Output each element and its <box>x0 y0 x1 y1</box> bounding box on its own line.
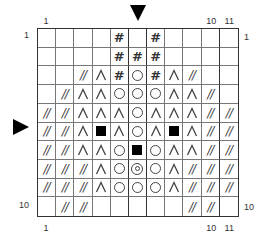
chart-cell <box>147 179 165 198</box>
chart-cell: // <box>202 123 220 142</box>
chart-cell <box>183 141 201 160</box>
double-slash-symbol-icon: // <box>207 201 213 213</box>
column-number-label: 10 <box>206 16 216 26</box>
chart-cell <box>129 160 147 179</box>
circle-symbol-icon <box>150 88 161 99</box>
circle-symbol-icon <box>132 88 143 99</box>
chart-cell <box>93 141 111 160</box>
chart-cell <box>74 29 92 48</box>
chart-cell <box>93 66 111 85</box>
double-slash-symbol-icon: // <box>189 69 195 81</box>
chart-cell <box>111 141 129 160</box>
caret-symbol-icon <box>95 144 107 156</box>
caret-symbol-icon <box>95 88 107 100</box>
double-slash-symbol-icon: // <box>62 163 68 175</box>
chart-cell <box>165 123 183 142</box>
double-slash-symbol-icon: // <box>44 181 50 193</box>
chart-cell <box>165 197 183 216</box>
double-slash-symbol-icon: // <box>62 88 68 100</box>
chart-cell: // <box>220 123 238 142</box>
double-slash-symbol-icon: // <box>207 144 213 156</box>
row-number-label: 1 <box>24 30 29 40</box>
chart-cell <box>183 123 201 142</box>
double-slash-symbol-icon: // <box>62 201 68 213</box>
row-number-label: 1 <box>244 32 249 42</box>
caret-symbol-icon <box>150 107 162 119</box>
chart-cell <box>111 179 129 198</box>
chart-cell <box>93 48 111 67</box>
hash-symbol-icon: # <box>114 50 125 63</box>
double-slash-symbol-icon: // <box>44 125 50 137</box>
chart-cell <box>129 141 147 160</box>
caret-symbol-icon <box>113 107 125 119</box>
chart-cell: // <box>38 123 56 142</box>
chart-cell: // <box>202 197 220 216</box>
chart-cell: // <box>202 104 220 123</box>
circle-symbol-icon <box>150 145 161 156</box>
caret-symbol-icon <box>168 163 180 175</box>
chart-cell <box>38 48 56 67</box>
double-slash-symbol-icon: // <box>226 163 232 175</box>
chart-cell <box>129 197 147 216</box>
chart-cell <box>93 123 111 142</box>
caret-symbol-icon <box>168 144 180 156</box>
chart-cell <box>183 104 201 123</box>
circle-symbol-icon <box>132 182 143 193</box>
chart-cell <box>165 66 183 85</box>
chart-cell: // <box>56 85 74 104</box>
chart-cell <box>74 104 92 123</box>
chart-cell <box>183 48 201 67</box>
hash-symbol-icon: # <box>150 69 161 82</box>
chart-cell <box>202 66 220 85</box>
double-slash-symbol-icon: // <box>226 125 232 137</box>
chart-cell: // <box>220 141 238 160</box>
chart-cell <box>165 179 183 198</box>
chart-cell: // <box>38 179 56 198</box>
chart-cell <box>129 66 147 85</box>
double-slash-symbol-icon: // <box>62 144 68 156</box>
caret-symbol-icon <box>186 88 198 100</box>
double-slash-symbol-icon: // <box>62 125 68 137</box>
chart-cell <box>111 104 129 123</box>
chart-cell <box>220 48 238 67</box>
chart-cell <box>147 104 165 123</box>
caret-symbol-icon <box>168 88 180 100</box>
chart-cell <box>147 123 165 142</box>
chart-cell <box>220 85 238 104</box>
column-number-label: 1 <box>44 223 49 233</box>
hash-symbol-icon: # <box>114 31 125 44</box>
double-slash-symbol-icon: // <box>189 163 195 175</box>
chart-cell <box>129 123 147 142</box>
filled-square-symbol-icon <box>132 145 142 155</box>
double-slash-symbol-icon: // <box>44 163 50 175</box>
chart-cell <box>183 85 201 104</box>
chart-cell <box>111 85 129 104</box>
chart-cell: # <box>111 29 129 48</box>
chart-cell <box>93 160 111 179</box>
chart-cell <box>74 85 92 104</box>
chart-cell <box>165 29 183 48</box>
chart-cell: // <box>220 104 238 123</box>
chart-cell <box>129 179 147 198</box>
chart-cell <box>147 85 165 104</box>
double-slash-symbol-icon: // <box>207 107 213 119</box>
caret-symbol-icon <box>168 107 180 119</box>
circle-symbol-icon <box>114 88 125 99</box>
caret-symbol-icon <box>113 125 125 137</box>
caret-symbol-icon <box>77 88 89 100</box>
row-number-label: 10 <box>244 202 254 212</box>
double-slash-symbol-icon: // <box>207 163 213 175</box>
chart-cell <box>93 179 111 198</box>
chart-cell <box>93 197 111 216</box>
circle-symbol-icon <box>114 163 125 174</box>
chart-cell: // <box>38 104 56 123</box>
chart-cell: # <box>147 48 165 67</box>
caret-symbol-icon <box>77 144 89 156</box>
double-slash-symbol-icon: // <box>44 107 50 119</box>
chart-cell <box>111 197 129 216</box>
right-triangle-icon <box>13 119 29 135</box>
circle-symbol-icon <box>114 182 125 193</box>
chart-cell <box>38 85 56 104</box>
chart-cell <box>93 104 111 123</box>
circle-symbol-icon <box>132 70 143 81</box>
